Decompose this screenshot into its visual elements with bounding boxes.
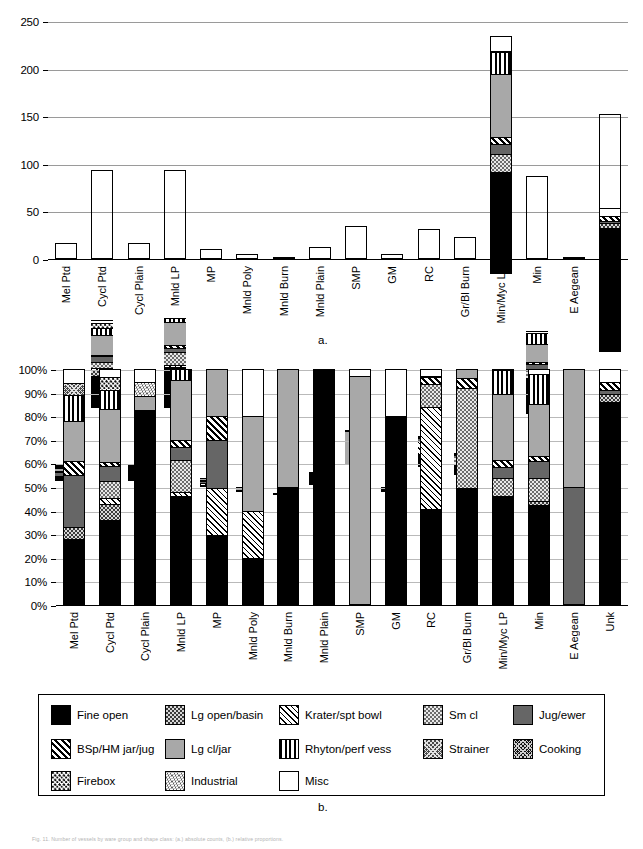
bar-segment-bsp_hm_jar_jug	[490, 137, 512, 144]
bar-mel-ptd[interactable]	[55, 243, 77, 259]
bar-segment-sm_cl	[492, 478, 514, 497]
x-axis-label-gr-bl-burn: Gr/Bl Burn	[459, 266, 471, 317]
legend-swatch-bsp_hm_jar_jug	[51, 739, 71, 759]
bar-segment-sm_cl	[528, 478, 550, 502]
bar-segment-rhyton_perf_vess	[492, 370, 514, 394]
bar-outline	[91, 170, 113, 259]
bar-segment-fine_open	[492, 496, 514, 605]
bar-unk[interactable]	[599, 114, 621, 259]
bar-min[interactable]	[526, 176, 548, 259]
legend-label-lg_open_basin: Lg open/basin	[191, 709, 263, 721]
x-axis-label-mnld-burn: Mnld Burn	[282, 612, 294, 662]
bar-segment-lg_open_basin	[63, 527, 85, 539]
bar-segment-sm_cl	[170, 460, 192, 492]
legend-swatch-rhyton_perf_vess	[279, 739, 299, 759]
bar-cycl-ptd[interactable]	[99, 369, 121, 605]
legend-label-industrial: Industrial	[191, 775, 238, 787]
y-axis-tick	[51, 535, 56, 536]
legend-label-jug_ewer: Jug/ewer	[539, 709, 586, 721]
x-axis-label-mel-ptd: Mel Ptd	[68, 612, 80, 649]
legend-item-firebox[interactable]: Firebox	[51, 771, 115, 791]
x-axis-label-cycl-plain: Cycl Plain	[139, 612, 151, 661]
bar-e-aegean[interactable]	[563, 369, 585, 605]
bar-outline	[526, 176, 548, 259]
bar-unk[interactable]	[599, 369, 621, 605]
bar-mnld-lp[interactable]	[164, 170, 186, 259]
legend-item-strainer[interactable]: Strainer	[423, 739, 489, 759]
bar-mnld-poly[interactable]	[236, 254, 258, 259]
bar-gm[interactable]	[381, 254, 403, 259]
y-axis-tick-label: 40%	[0, 506, 47, 518]
legend-item-jug_ewer[interactable]: Jug/ewer	[513, 705, 586, 725]
legend-item-lg_open_basin[interactable]: Lg open/basin	[165, 705, 263, 725]
x-axis-label-cycl-ptd: Cycl Ptd	[96, 266, 108, 307]
legend-item-cooking[interactable]: Cooking	[513, 739, 581, 759]
x-axis-label-min: Min	[533, 612, 545, 630]
bar-mp[interactable]	[200, 249, 222, 259]
y-axis-tick-label: 30%	[0, 529, 47, 541]
bar-segment-lg_open_basin	[528, 501, 550, 505]
bar-segment-firebox	[99, 377, 121, 390]
bar-rc[interactable]	[418, 229, 440, 259]
bar-cycl-plain[interactable]	[128, 243, 150, 259]
legend-label-cooking: Cooking	[539, 743, 581, 755]
legend-item-misc[interactable]: Misc	[279, 771, 329, 791]
bar-mnld-plain[interactable]	[313, 369, 335, 605]
chart-legend: Fine openLg open/basinKrater/spt bowlSm …	[38, 694, 605, 796]
legend-item-sm_cl[interactable]: Sm cl	[423, 705, 478, 725]
bar-min[interactable]	[528, 369, 550, 605]
x-axis-label-gm: GM	[386, 266, 398, 284]
legend-item-rhyton_perf_vess[interactable]: Rhyton/perf vess	[279, 739, 391, 759]
bar-mnld-lp[interactable]	[170, 369, 192, 605]
bar-mnld-poly[interactable]	[242, 369, 264, 605]
bar-min-myc-lp[interactable]	[490, 36, 512, 259]
bar-outline	[309, 247, 331, 259]
bar-segment-rhyton_perf_vess	[528, 374, 550, 405]
gridline	[48, 22, 628, 23]
bar-segment-misc	[99, 369, 121, 377]
legend-item-lg_cl_jar[interactable]: Lg cl/jar	[165, 739, 231, 759]
bar-mnld-burn[interactable]	[277, 369, 299, 605]
bar-gr-bl-burn[interactable]	[456, 369, 478, 605]
bar-segment-bsp_hm_jar_jug	[63, 461, 85, 475]
x-axis-label-mp: MP	[211, 612, 223, 629]
y-axis-tick	[51, 464, 56, 465]
bar-gm[interactable]	[385, 369, 407, 605]
y-axis-tick	[51, 559, 56, 560]
bar-segment-bsp_hm_jar_jug	[99, 462, 121, 466]
legend-item-fine_open[interactable]: Fine open	[51, 705, 128, 725]
bar-e-aegean[interactable]	[563, 257, 585, 259]
legend-label-sm_cl: Sm cl	[449, 709, 478, 721]
bar-gr-bl-burn[interactable]	[454, 237, 476, 259]
bar-cycl-plain[interactable]	[134, 369, 156, 605]
bar-rc[interactable]	[420, 369, 442, 605]
bar-smp[interactable]	[345, 226, 367, 259]
x-axis-label-smp: SMP	[354, 612, 366, 636]
legend-item-industrial[interactable]: Industrial	[165, 771, 238, 791]
bar-mnld-burn[interactable]	[273, 257, 295, 259]
bar-segment-lg_open_basin	[99, 504, 121, 521]
bar-outline	[345, 226, 367, 259]
x-axis-label-mnld-plain: Mnld Plain	[314, 266, 326, 317]
bar-segment-sm_cl	[420, 384, 442, 406]
y-axis-tick	[43, 212, 48, 213]
bar-smp[interactable]	[349, 369, 371, 605]
bar-mp[interactable]	[206, 369, 228, 605]
bar-segment-rhyton_perf_vess	[91, 328, 113, 336]
bar-segment-misc	[385, 369, 407, 416]
bar-segment-misc	[63, 369, 85, 383]
bar-cycl-ptd[interactable]	[91, 170, 113, 259]
bar-segment-fine_open	[490, 172, 512, 274]
y-axis-tick	[51, 606, 56, 607]
bar-outline	[55, 243, 77, 259]
x-axis-label-mnld-lp: Mnld LP	[169, 266, 181, 306]
legend-item-bsp_hm_jar_jug[interactable]: BSp/HM jar/jug	[51, 739, 154, 759]
x-axis-label-mp: MP	[205, 266, 217, 283]
legend-swatch-sm_cl	[423, 705, 443, 725]
bar-mnld-plain[interactable]	[309, 247, 331, 259]
bar-segment-lg_cl_jar	[242, 416, 264, 510]
legend-item-krater_spt_bowl[interactable]: Krater/spt bowl	[279, 705, 382, 725]
bar-min-myc-lp[interactable]	[492, 369, 514, 605]
bar-mel-ptd[interactable]	[63, 369, 85, 605]
y-axis-tick	[43, 70, 48, 71]
